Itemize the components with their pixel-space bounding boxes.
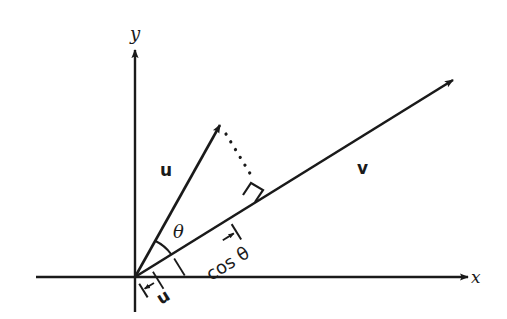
angle-theta-label: θ — [173, 221, 184, 242]
y-axis-label: y — [129, 23, 141, 44]
vector-u-label: u — [160, 160, 172, 180]
angle-arc — [156, 241, 172, 254]
x-axis-label: x — [471, 267, 481, 287]
vector-v-label: v — [357, 158, 368, 178]
perpendicular-dotted-line — [226, 134, 254, 180]
vector-u — [135, 125, 220, 277]
projection-diagram: x y v u θ u cos θ — [0, 0, 507, 319]
vector-v — [135, 80, 453, 277]
projection-u-label: u — [153, 285, 174, 308]
